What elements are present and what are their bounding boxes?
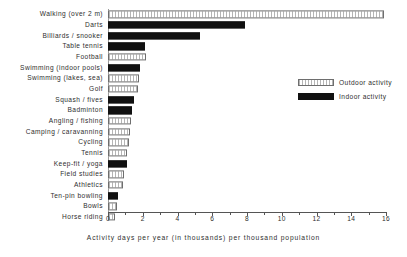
axis-tick [195,212,196,215]
bar-indoor [108,96,134,103]
bar-outdoor [108,181,123,188]
bar-indoor [108,160,127,167]
axis-tick-label: 16 [382,216,390,223]
axis-tick [125,212,126,215]
category-label: Bowls [83,203,103,210]
bar-outdoor [108,75,139,82]
bar-row: Darts [108,20,386,31]
category-label: Golf [89,86,103,93]
axis-tick-label: 10 [278,216,286,223]
category-label: Horse riding [62,214,103,221]
axis-tick-label: 0 [106,216,110,223]
bar-outdoor [108,149,127,156]
legend-item-indoor: Indoor activity [298,91,402,102]
bar-row: Ten-pin bowling [108,190,386,201]
legend-item-outdoor: Outdoor activity [298,77,402,88]
category-label: Darts [85,22,103,29]
category-label: Keep-fit / yoga [54,160,103,167]
bar-outdoor [108,128,130,135]
category-label: Swimming (indoor pools) [20,64,103,71]
bar-indoor [108,43,145,50]
bar-outdoor [108,139,129,146]
axis-tick [160,212,161,215]
bar-row: Swimming (indoor pools) [108,62,386,73]
legend-label: Outdoor activity [339,79,392,86]
bar-row: Table tennis [108,41,386,52]
plot-area: Walking (over 2 m)DartsBilliards / snook… [108,9,386,212]
legend-swatch-indoor [298,93,334,100]
axis-tick [334,212,335,215]
bar-outdoor [108,171,124,178]
bar-row: Badminton [108,105,386,116]
bar-outdoor [108,117,131,124]
category-label: Billiards / snooker [42,32,103,39]
bar-row: Cycling [108,137,386,148]
bar-row: Athletics [108,180,386,191]
category-label: Football [76,54,103,61]
bar-indoor [108,21,245,28]
category-label: Tennis [81,150,103,157]
axis-tick [230,212,231,215]
category-label: Field studies [60,171,103,178]
axis-tick-label: 14 [347,216,355,223]
legend-label: Indoor activity [339,93,386,100]
bar-row: Angling / fishing [108,116,386,127]
bar-row: Field studies [108,169,386,180]
axis-tick-label: 2 [141,216,145,223]
legend: Outdoor activityIndoor activity [298,77,402,105]
bar-outdoor [108,11,384,18]
category-label: Squash / fives [55,96,103,103]
bar-row: Football [108,52,386,63]
bar-row: Camping / caravanning [108,126,386,137]
x-axis-title: Activity days per year (in thousands) pe… [0,234,407,241]
axis-tick-label: 4 [175,216,179,223]
bar-row: Bowls [108,201,386,212]
bar-indoor [108,107,132,114]
bar-row: Tennis [108,148,386,159]
bar-indoor [108,64,140,71]
axis-tick [299,212,300,215]
bar-row: Billiards / snooker [108,30,386,41]
category-label: Ten-pin bowling [50,192,103,199]
bar-row: Walking (over 2 m) [108,9,386,20]
category-label: Walking (over 2 m) [40,11,103,18]
category-label: Swimming (lakes, sea) [27,75,103,82]
category-label: Athletics [74,182,103,189]
axis-tick-label: 8 [245,216,249,223]
bar-indoor [108,32,200,39]
axis-tick-label: 12 [312,216,320,223]
bar-row: Keep-fit / yoga [108,158,386,169]
bar-outdoor [108,85,138,92]
category-label: Cycling [78,139,103,146]
value-axis-labels: 0246810121416 [108,216,386,226]
axis-tick [264,212,265,215]
bar-chart: Walking (over 2 m)DartsBilliards / snook… [0,0,407,257]
bar-outdoor [108,53,146,60]
axis-tick-label: 6 [210,216,214,223]
bar-indoor [108,192,118,199]
axis-tick [369,212,370,215]
bar-outdoor [108,203,117,210]
legend-swatch-outdoor [298,79,334,86]
category-label: Table tennis [62,43,103,50]
category-label: Badminton [67,107,103,114]
category-label: Angling / fishing [49,118,103,125]
category-label: Camping / caravanning [26,128,103,135]
